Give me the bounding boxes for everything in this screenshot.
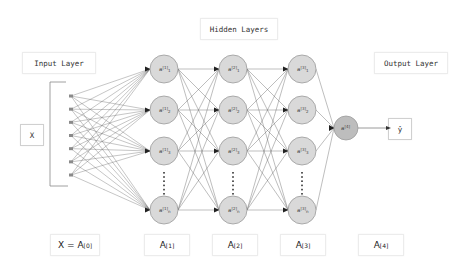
ellipsis-dot	[232, 185, 234, 187]
hidden-layer-2: a[2]1a[2]2a[2]3a[2]n	[219, 55, 247, 224]
layer-label-a3: A[3]	[280, 234, 326, 256]
arrow-head-icon	[386, 126, 391, 130]
ellipsis-dot	[301, 193, 303, 195]
ellipsis-dot	[301, 180, 303, 182]
ellipsis-dot	[301, 185, 303, 187]
layer-label-a2: A[2]	[212, 234, 258, 256]
ellipsis-dot	[232, 193, 234, 195]
input-bracket	[50, 82, 68, 186]
a0-base: X = A	[58, 240, 84, 250]
hidden-layer-1: a[1]1a[1]2a[1]3a[1]n	[150, 55, 178, 224]
input-node	[69, 160, 73, 163]
network-graph: a[1]1a[1]2a[1]3a[1]na[2]1a[2]2a[2]3a[2]n…	[0, 0, 454, 273]
output-layer: a[4]	[334, 116, 358, 140]
ellipsis-dot	[301, 189, 303, 191]
input-node	[69, 121, 73, 124]
ellipsis-dot	[163, 180, 165, 182]
ellipsis-dot	[163, 176, 165, 178]
input-node	[69, 95, 73, 98]
ellipsis-dot	[232, 172, 234, 174]
input-node	[69, 108, 73, 111]
layer-label-a0: X = A[0]	[50, 234, 100, 256]
a2-sup: [2]	[234, 242, 243, 249]
ellipsis-dot	[232, 176, 234, 178]
layer-label-a4: A[4]	[358, 234, 404, 256]
input-node	[69, 174, 73, 177]
input-node	[69, 134, 73, 137]
input-node	[69, 147, 73, 150]
a3-sup: [3]	[302, 242, 311, 249]
a0-sup: [0]	[84, 242, 93, 249]
a1-sup: [1]	[166, 242, 175, 249]
layer-label-a1: A[1]	[144, 234, 190, 256]
ellipsis-dot	[232, 189, 234, 191]
ellipsis-dot	[301, 176, 303, 178]
ellipsis-dot	[163, 193, 165, 195]
ellipsis-dot	[163, 172, 165, 174]
ellipsis-dot	[163, 185, 165, 187]
ellipsis-dot	[163, 189, 165, 191]
a4-sup: [4]	[380, 242, 389, 249]
ellipsis-dot	[301, 172, 303, 174]
hidden-layer-3: a[3]1a[3]2a[3]3a[3]n	[288, 55, 316, 224]
ellipsis-dot	[232, 180, 234, 182]
